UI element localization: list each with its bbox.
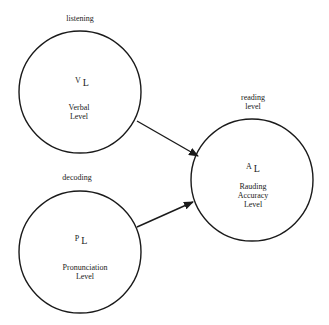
rauding-symbol: AL <box>246 160 260 172</box>
decoding-label: decoding <box>62 173 91 182</box>
label-line: reading <box>241 93 265 102</box>
diagram-shapes <box>0 0 329 325</box>
label-line: Level <box>238 200 269 209</box>
verbal-level-label: Verbal Level <box>69 103 90 121</box>
symbol-subscript: L <box>254 163 260 174</box>
label-line: Pronunciation <box>63 263 108 272</box>
symbol-subscript: L <box>83 77 89 88</box>
listening-label: listening <box>66 14 94 23</box>
symbol-main: P <box>75 234 79 243</box>
verbal-symbol: VL <box>75 74 89 86</box>
symbol-subscript: L <box>81 235 87 246</box>
rauding-accuracy-level-node <box>191 119 313 241</box>
symbol-main: V <box>75 76 81 85</box>
label-line: Level <box>69 112 90 121</box>
symbol-main: A <box>246 162 252 171</box>
rauding-accuracy-level-label: Rauding Accuracy Level <box>238 182 269 210</box>
label-line: Verbal <box>69 103 90 112</box>
label-line: Rauding <box>238 182 269 191</box>
pronunciation-level-node <box>19 191 141 313</box>
label-line: level <box>241 102 265 111</box>
pronunciation-symbol: PL <box>75 232 88 244</box>
diagram-canvas: listening VL Verbal Level decoding PL Pr… <box>0 0 329 325</box>
arrow-pronunciation-to-rauding <box>137 202 193 227</box>
label-line: Level <box>63 272 108 281</box>
label-line: Accuracy <box>238 191 269 200</box>
reading-level-label: reading level <box>241 93 265 111</box>
verbal-level-node <box>19 31 141 153</box>
arrow-verbal-to-rauding <box>137 121 198 156</box>
pronunciation-level-label: Pronunciation Level <box>63 263 108 281</box>
